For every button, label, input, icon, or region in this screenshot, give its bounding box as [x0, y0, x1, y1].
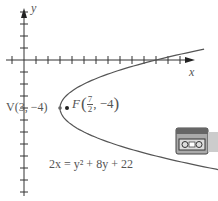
equation-label: 2x = y² + 8y + 22 [49, 157, 133, 172]
focus-point [65, 106, 69, 110]
vertex-point [58, 106, 62, 110]
close-paren: ) [113, 94, 119, 114]
focus-label: F ( 7 2 , −4 ) [72, 94, 119, 114]
video-camera-icon [176, 128, 218, 154]
fraction-denominator: 2 [88, 105, 93, 114]
y-axis-label: y [31, 1, 36, 16]
focus-label-letter: F [72, 96, 80, 112]
x-axis-label: x [189, 65, 194, 80]
vertex-label: V(3, −4) [6, 100, 47, 115]
focus-y-value: −4 [100, 96, 114, 112]
